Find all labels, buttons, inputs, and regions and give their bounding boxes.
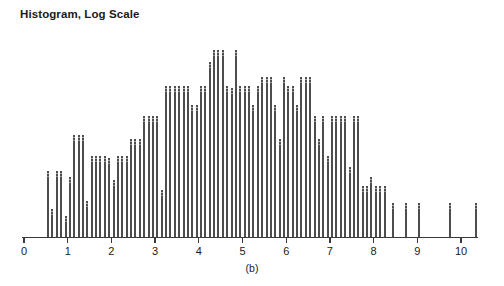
histogram-bar [235, 50, 237, 237]
histogram-bar [47, 171, 49, 237]
x-axis-tick-label: 9 [407, 245, 427, 257]
histogram-bar [309, 77, 311, 237]
histogram-bar [305, 77, 307, 237]
histogram-bar [449, 203, 451, 237]
x-axis-tick [417, 237, 418, 243]
histogram-bar [91, 156, 93, 237]
histogram-bar [187, 86, 189, 237]
histogram-bar [418, 203, 420, 237]
histogram-bar [405, 203, 407, 237]
histogram-bar [370, 177, 372, 237]
histogram-bar [209, 62, 211, 237]
x-axis-tick [23, 237, 24, 243]
x-axis-tick-label: 0 [14, 245, 34, 257]
histogram-bar [248, 86, 250, 237]
histogram-bar [174, 86, 176, 237]
histogram-bar [261, 77, 263, 237]
histogram-bar [178, 86, 180, 237]
figure-subcaption: (b) [0, 262, 504, 274]
histogram-bar [196, 105, 198, 237]
x-axis-tick-label: 7 [320, 245, 340, 257]
x-axis-tick [111, 237, 112, 243]
histogram-bar [148, 116, 150, 237]
x-axis-tick [286, 237, 287, 243]
histogram-bar [143, 116, 145, 237]
histogram-bar [86, 201, 88, 237]
x-axis-tick [198, 237, 199, 243]
histogram-bar [200, 86, 202, 237]
x-axis-tick [67, 237, 68, 243]
histogram-bar [73, 135, 75, 237]
histogram-bar [65, 216, 67, 237]
histogram-bar [239, 86, 241, 237]
histogram-bar [314, 116, 316, 237]
histogram-bar [375, 186, 377, 237]
histogram-bar [300, 77, 302, 237]
histogram-bar [475, 203, 477, 237]
histogram-bar [357, 116, 359, 237]
histogram-bar [152, 116, 154, 237]
histogram-bar [283, 77, 285, 237]
histogram-bar [257, 86, 259, 237]
x-axis-tick-label: 1 [58, 245, 78, 257]
histogram-bar [327, 156, 329, 237]
histogram-bar [322, 116, 324, 237]
histogram-bar [95, 156, 97, 237]
histogram-bar [60, 171, 62, 237]
histogram-bar [252, 105, 254, 237]
histogram-bar [78, 135, 80, 237]
histogram-bar [169, 86, 171, 237]
histogram-bar [366, 186, 368, 237]
x-axis-tick [460, 237, 461, 243]
x-axis-tick [329, 237, 330, 243]
x-axis-tick [242, 237, 243, 243]
plot-area [0, 0, 504, 240]
histogram-bar [274, 105, 276, 237]
histogram-bar [126, 156, 128, 237]
histogram-figure: Histogram, Log Scale 012345678910 (b) [0, 0, 504, 286]
histogram-bar [353, 116, 355, 237]
x-axis-tick-label: 6 [276, 245, 296, 257]
histogram-bar [113, 180, 115, 238]
x-axis-tick-label: 8 [364, 245, 384, 257]
histogram-bar [191, 105, 193, 237]
x-axis-tick-label: 10 [451, 245, 471, 257]
histogram-bar [231, 88, 233, 237]
histogram-bar [165, 86, 167, 237]
histogram-bar [287, 86, 289, 237]
histogram-bar [279, 139, 281, 237]
histogram-bar [117, 156, 119, 237]
x-axis-tick-label: 3 [145, 245, 165, 257]
axis-line [22, 237, 478, 238]
histogram-bar [217, 50, 219, 237]
histogram-bar [134, 139, 136, 237]
histogram-bar [183, 86, 185, 237]
histogram-bar [82, 135, 84, 237]
histogram-bar [204, 86, 206, 237]
histogram-bar [108, 158, 110, 237]
histogram-bar [69, 177, 71, 237]
histogram-bar [362, 186, 364, 237]
x-axis-tick [373, 237, 374, 243]
histogram-bar [226, 86, 228, 237]
histogram-bar [392, 203, 394, 237]
histogram-bar [121, 156, 123, 237]
histogram-bar [156, 116, 158, 237]
histogram-bar [349, 167, 351, 237]
histogram-bar [56, 171, 58, 237]
histogram-bar [335, 116, 337, 237]
histogram-bar [344, 116, 346, 237]
histogram-bar [130, 139, 132, 237]
histogram-bar [161, 190, 163, 237]
histogram-bar [331, 116, 333, 237]
histogram-bar [244, 86, 246, 237]
x-axis-tick-label: 4 [189, 245, 209, 257]
histogram-bar [51, 209, 53, 237]
histogram-bar [318, 139, 320, 237]
histogram-bar [99, 156, 101, 237]
x-axis-tick-label: 2 [101, 245, 121, 257]
histogram-bar [379, 186, 381, 237]
histogram-bar [340, 116, 342, 237]
histogram-bar [104, 156, 106, 237]
histogram-bar [213, 50, 215, 237]
